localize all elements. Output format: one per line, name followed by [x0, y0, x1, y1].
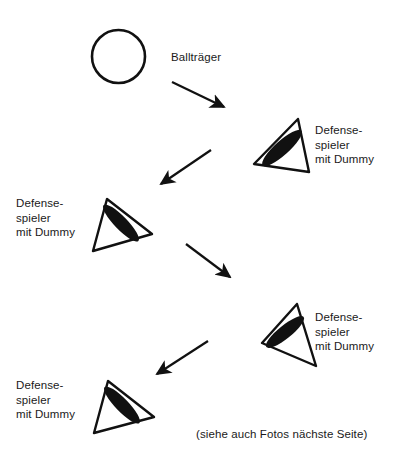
ball-carrier-circle — [92, 30, 145, 83]
movement-arrow-2 — [161, 150, 211, 184]
defender-triangle-2 — [93, 199, 152, 251]
figure-canvas: Ballträger Defense- spieler mit Dummy De… — [0, 0, 402, 470]
defender-2-label: Defense- spieler mit Dummy — [16, 196, 75, 240]
figure-footnote: (siehe auch Fotos nächste Seite) — [196, 427, 367, 442]
defender-1-label: Defense- spieler mit Dummy — [315, 123, 374, 167]
defender-3-label: Defense- spieler mit Dummy — [315, 310, 374, 354]
movement-arrow-4 — [157, 341, 208, 374]
movement-arrow-1 — [172, 82, 224, 107]
movement-arrow-3 — [186, 244, 230, 277]
defender-triangle-4 — [94, 381, 154, 433]
defender-triangle-1 — [254, 119, 309, 172]
defender-triangle-3 — [262, 304, 316, 366]
defender-4-label: Defense- spieler mit Dummy — [16, 378, 75, 422]
ball-carrier-label: Ballträger — [171, 50, 221, 65]
